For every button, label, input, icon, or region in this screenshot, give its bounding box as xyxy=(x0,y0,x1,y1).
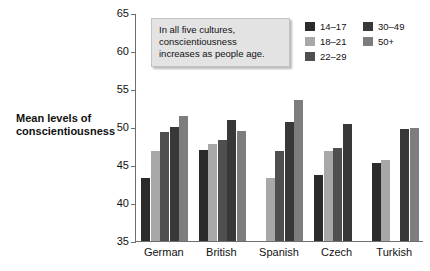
bar xyxy=(294,100,303,241)
bar xyxy=(227,120,236,241)
y-tick-label: 60 xyxy=(117,45,129,57)
bar xyxy=(218,140,227,241)
bar xyxy=(314,175,323,241)
annotation-callout: In all five cultures, conscientiousness … xyxy=(151,18,290,67)
y-axis-title: Mean levels of conscientiousness xyxy=(16,112,120,138)
legend-swatch-icon xyxy=(305,52,315,61)
bar xyxy=(285,122,294,241)
bar xyxy=(160,132,169,241)
y-tick-label: 35 xyxy=(117,235,129,247)
y-tick-mark xyxy=(131,242,136,243)
bar xyxy=(324,151,333,241)
bar xyxy=(343,124,352,241)
bar xyxy=(410,128,419,241)
legend-swatch-icon xyxy=(363,22,373,31)
y-tick-label: 45 xyxy=(117,159,129,171)
legend-swatch-icon xyxy=(363,37,373,46)
annotation-line-3: increases as people age. xyxy=(159,48,282,60)
bar xyxy=(372,163,381,241)
bar xyxy=(179,116,188,241)
bar xyxy=(275,151,284,241)
legend-item[interactable]: 50+ xyxy=(363,34,404,49)
category-label: German xyxy=(135,246,193,258)
legend-label: 22–29 xyxy=(320,51,346,62)
legend-item[interactable]: 30–49 xyxy=(363,19,404,34)
legend-column-right: 30–4950+ xyxy=(363,19,404,49)
legend-label: 18–21 xyxy=(320,36,346,47)
legend-label: 14–17 xyxy=(320,21,346,32)
x-axis-line xyxy=(135,241,423,242)
legend-column-left: 14–1718–2122–29 xyxy=(305,19,346,64)
y-tick-label: 50 xyxy=(117,121,129,133)
y-tick-label: 40 xyxy=(117,197,129,209)
bar xyxy=(237,131,246,241)
bar xyxy=(199,150,208,241)
legend-label: 50+ xyxy=(378,36,394,47)
bar xyxy=(333,148,342,241)
bar xyxy=(208,144,217,241)
bar xyxy=(170,127,179,241)
legend-swatch-icon xyxy=(305,37,315,46)
category-label: Turkish xyxy=(365,246,423,258)
legend-label: 30–49 xyxy=(378,21,404,32)
legend-item[interactable]: 14–17 xyxy=(305,19,346,34)
bar xyxy=(266,178,275,241)
category-label: British xyxy=(193,246,251,258)
y-tick-label: 65 xyxy=(117,7,129,19)
legend-item[interactable]: 22–29 xyxy=(305,49,346,64)
bar xyxy=(400,129,409,241)
bar xyxy=(141,178,150,241)
legend-item[interactable]: 18–21 xyxy=(305,34,346,49)
annotation-line-2: conscientiousness xyxy=(159,36,282,48)
legend-swatch-icon xyxy=(305,22,315,31)
bar xyxy=(151,151,160,241)
category-label: Spanish xyxy=(250,246,308,258)
y-tick-label: 55 xyxy=(117,83,129,95)
annotation-line-1: In all five cultures, xyxy=(159,24,282,36)
bar xyxy=(381,160,390,241)
category-label: Czech xyxy=(308,246,366,258)
